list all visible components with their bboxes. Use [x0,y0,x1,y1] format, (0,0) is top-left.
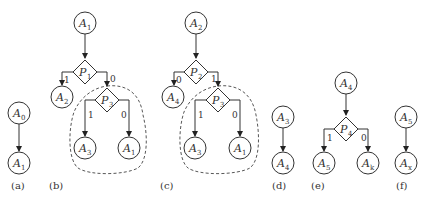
action-node: A 5 [395,106,417,128]
edge-label: 0 [176,75,182,85]
predicate-node: P 1 [73,60,97,84]
svg-text:A: A [122,142,131,155]
edge-label: 1 [88,110,94,120]
svg-text:3: 3 [87,149,91,157]
edge-label: 1 [211,74,217,84]
panel-e: 1 0 A 4 P 4 A 5 A k (e) [311,72,379,191]
action-node: A 3 [272,106,294,128]
svg-text:A: A [233,142,242,155]
svg-text:A: A [12,157,21,170]
svg-text:3: 3 [220,101,224,109]
edge-label: 1 [198,110,204,120]
svg-text:A: A [276,157,285,170]
svg-text:1: 1 [87,24,91,32]
action-node: A 4 [272,152,294,174]
action-node: A 1 [229,137,251,159]
panel-c: 0 1 1 0 A 2 P 2 A 4 P 3 A 3 [160,12,258,191]
svg-text:A: A [166,91,175,104]
svg-text:A: A [339,77,348,90]
svg-text:x: x [408,164,412,172]
svg-text:3: 3 [197,149,201,157]
svg-text:A: A [78,142,87,155]
predicate-node: P 4 [334,117,358,141]
action-node: A 1 [8,152,30,174]
svg-text:1: 1 [21,164,25,172]
action-node: A 5 [313,152,335,174]
action-node: A 2 [185,12,207,34]
svg-text:1: 1 [131,149,135,157]
svg-text:4: 4 [285,164,290,172]
action-node: A 4 [162,86,184,108]
panel-caption: (e) [311,180,325,191]
action-node: A 1 [118,137,140,159]
svg-text:A: A [78,17,87,30]
panel-caption: (a) [11,180,25,191]
edge-label: 0 [121,110,127,120]
edge-arrow [97,72,107,86]
predicate-node: P 3 [95,88,119,112]
svg-text:P: P [211,94,220,107]
predicate-node: P 2 [184,60,208,84]
svg-text:P: P [339,123,348,136]
action-node: A 2 [51,86,73,108]
svg-text:A: A [189,17,198,30]
svg-text:A: A [399,111,408,124]
svg-text:P: P [78,66,87,79]
svg-text:3: 3 [109,101,113,109]
panel-caption: (f) [396,180,408,191]
svg-text:A: A [399,157,408,170]
svg-text:P: P [189,66,198,79]
action-node: A 3 [74,137,96,159]
svg-text:A: A [276,111,285,124]
edge-label: 1 [64,75,70,85]
svg-text:4: 4 [348,84,353,92]
svg-text:4: 4 [175,98,180,106]
panel-a: A 0 A 1 (a) [8,102,30,191]
svg-text:1: 1 [242,149,246,157]
svg-text:0: 0 [21,114,25,122]
svg-text:A: A [55,91,64,104]
action-node: A 1 [74,12,96,34]
panel-f: A 5 A x (f) [395,106,417,191]
action-node: A x [395,152,417,174]
panel-caption: (b) [49,180,63,191]
svg-text:A: A [361,157,370,170]
svg-text:A: A [188,142,197,155]
action-node: A k [357,152,379,174]
svg-text:5: 5 [326,164,330,172]
diagram-canvas: A 0 A 1 (a) 1 0 1 0 A 1 P 1 [0,0,428,202]
svg-text:5: 5 [408,118,412,126]
svg-text:A: A [12,107,21,120]
svg-text:A: A [317,157,326,170]
panel-d: A 3 A 4 (d) [272,106,294,191]
panel-b: 1 0 1 0 A 1 P 1 A 2 P 3 A 3 [49,12,146,191]
svg-text:2: 2 [64,98,68,106]
svg-text:1: 1 [87,73,91,81]
svg-text:P: P [100,94,109,107]
predicate-node: P 3 [206,88,230,112]
edge-label: 1 [327,133,333,143]
action-node: A 4 [335,72,357,94]
edge-label: 0 [110,74,116,84]
edge-label: 0 [361,133,367,143]
edge-label: 0 [232,110,238,120]
action-node: A 3 [184,137,206,159]
panel-caption: (d) [272,180,286,191]
svg-text:2: 2 [198,24,202,32]
panel-caption: (c) [160,180,174,191]
svg-text:4: 4 [348,130,353,138]
svg-text:2: 2 [198,73,202,81]
svg-text:3: 3 [285,118,289,126]
action-node: A 0 [8,102,30,124]
